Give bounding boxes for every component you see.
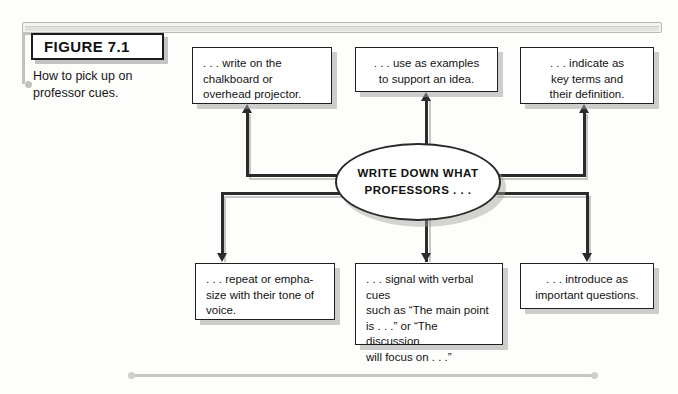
hub-node-write-down-what-professors: WRITE DOWN WHAT PROFESSORS . . .	[335, 143, 501, 221]
arrowhead-up-keyterms	[579, 104, 589, 113]
top-decorative-rule	[22, 22, 662, 33]
node-examples: . . . use as examples to support an idea…	[355, 47, 498, 92]
hub-line-2: PROFESSORS . . .	[364, 182, 471, 199]
node-tone-line-1: . . . repeat or empha-	[206, 272, 324, 288]
hub-line-1: WRITE DOWN WHAT	[358, 165, 479, 182]
node-chalkboard-line-2: chalkboard or	[203, 72, 321, 88]
node-verbal-cues-line-3: is . . .” or “The discussion	[366, 319, 492, 350]
arrowhead-down-questions	[582, 253, 592, 262]
figure-label-text: FIGURE 7.1	[44, 38, 130, 55]
bottom-decorative-rule	[131, 374, 595, 377]
arrowhead-down-verbalcues	[421, 253, 431, 262]
node-chalkboard-line-1: . . . write on the	[203, 56, 321, 72]
arrowhead-up-examples	[421, 92, 431, 101]
node-examples-line-1: . . . use as examples	[366, 56, 487, 72]
node-verbal-cues-line-2: such as “The main point	[366, 303, 492, 319]
arrowhead-up-chalkboard	[242, 104, 252, 113]
node-tone: . . . repeat or empha- size with their t…	[195, 263, 335, 320]
node-key-terms-line-3: their definition.	[531, 87, 643, 103]
node-key-terms-line-1: . . . indicate as	[531, 56, 643, 72]
node-verbal-cues: . . . signal with verbal cues such as “T…	[355, 263, 503, 345]
node-key-terms: . . . indicate as key terms and their de…	[520, 47, 654, 104]
node-key-terms-line-2: key terms and	[531, 72, 643, 88]
figure-caption: How to pick up on professor cues.	[33, 68, 183, 102]
node-verbal-cues-line-1: . . . signal with verbal cues	[366, 272, 492, 303]
arrowhead-down-tone	[217, 253, 227, 262]
node-verbal-cues-line-4: will focus on . . .”	[366, 350, 492, 366]
node-questions: . . . introduce as important questions.	[520, 263, 654, 309]
node-examples-line-2: to support an idea.	[366, 72, 487, 88]
node-questions-line-2: important questions.	[531, 288, 643, 304]
figure-label-box: FIGURE 7.1	[31, 33, 164, 60]
node-questions-line-1: . . . introduce as	[531, 272, 643, 288]
node-tone-line-2: size with their tone of	[206, 288, 324, 304]
figure-page: FIGURE 7.1 How to pick up on professor c…	[0, 0, 678, 394]
node-tone-line-3: voice.	[206, 303, 324, 319]
node-chalkboard: . . . write on the chalkboard or overhea…	[192, 47, 332, 104]
node-chalkboard-line-3: overhead projector.	[203, 87, 321, 103]
